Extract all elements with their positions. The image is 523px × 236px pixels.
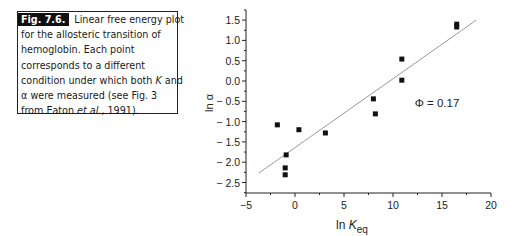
scatter-chart: 1.51.00.50.0− 0.5− 1.0− 1.5− 2.0− 2.5−50…: [0, 0, 523, 236]
axes: 1.51.00.50.0− 0.5− 1.0− 1.5− 2.0− 2.5−50…: [216, 10, 497, 211]
y-tick-label: − 1.5: [216, 136, 240, 148]
data-point: [284, 152, 289, 157]
y-tick-label: 0.5: [225, 55, 240, 67]
x-tick-label: −5: [240, 199, 252, 211]
y-tick-label: 1.5: [225, 14, 240, 26]
y-axis-label: ln α: [203, 93, 215, 112]
phi-annotation: Φ = 0.17: [415, 97, 460, 109]
x-axis-label: ln Keq: [336, 218, 368, 235]
y-tick-label: − 2.5: [216, 177, 240, 189]
data-point: [373, 111, 378, 116]
data-point: [296, 127, 301, 132]
x-tick-label: 0: [292, 199, 298, 211]
data-point: [283, 172, 288, 177]
data-point: [283, 165, 288, 170]
data-point: [454, 25, 459, 30]
y-tick-label: − 2.0: [216, 156, 240, 168]
data-point: [371, 96, 376, 101]
x-tick-label: 10: [387, 199, 399, 211]
data-point: [323, 130, 328, 135]
data-point: [399, 57, 404, 62]
y-tick-label: 0.0: [225, 75, 240, 87]
data-point: [275, 122, 280, 127]
y-tick-label: − 0.5: [216, 95, 240, 107]
y-tick-label: 1.0: [225, 34, 240, 46]
x-tick-label: 15: [436, 199, 448, 211]
x-tick-label: 5: [341, 199, 347, 211]
y-tick-label: − 1.0: [216, 116, 240, 128]
x-tick-label: 20: [485, 199, 497, 211]
data-point: [399, 78, 404, 83]
